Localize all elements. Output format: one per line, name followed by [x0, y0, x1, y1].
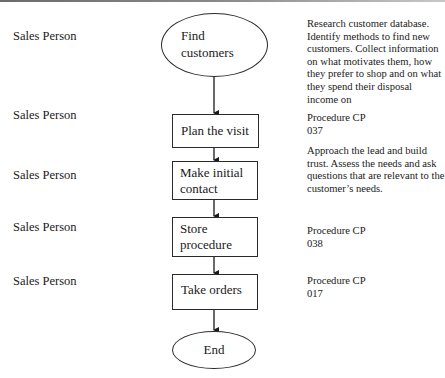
step-label: customers	[181, 45, 234, 60]
step-end: End	[172, 331, 256, 369]
step-label: procedure	[180, 237, 232, 252]
note-make-contact: Approach the lead and build trust. Asses…	[307, 145, 445, 195]
step-plan-visit: Plan the visit	[172, 114, 259, 148]
step-label: Store	[180, 221, 207, 236]
step-label: Make initial	[180, 165, 243, 180]
step-store-procedure: Store procedure	[172, 217, 258, 257]
step-take-orders: Take orders	[172, 274, 258, 310]
step-label: contact	[180, 181, 218, 196]
step-label: Plan the visit	[181, 123, 249, 138]
note-find-customers: Research customer database. Identify met…	[307, 18, 445, 106]
note-store-procedure: Procedure CP 038	[307, 225, 377, 250]
step-label: Take orders	[181, 282, 242, 297]
step-find-customers: Find customers	[161, 13, 268, 77]
step-label: Find	[181, 28, 205, 43]
note-take-orders: Procedure CP 017	[307, 275, 377, 300]
step-make-initial-contact: Make initial contact	[172, 161, 258, 200]
step-label: End	[173, 342, 255, 357]
note-plan-visit: Procedure CP 037	[307, 112, 377, 137]
